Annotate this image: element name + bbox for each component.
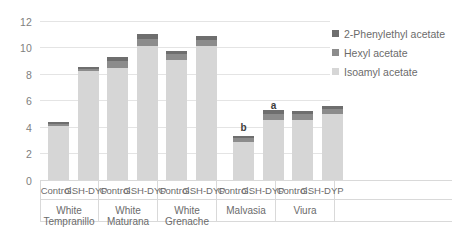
group-label-viura: Viura — [276, 205, 334, 216]
segment-hexyl-acetate — [107, 61, 128, 68]
group-label-white-grenache: White Grenache — [158, 205, 216, 227]
square-swatch-icon — [332, 49, 339, 56]
y-axis-label-4: 4 — [0, 122, 32, 134]
bar-malvasia-control[interactable] — [233, 136, 254, 180]
bar-white-grenache-gsh-dyp[interactable] — [196, 36, 217, 180]
square-swatch-icon — [332, 30, 339, 37]
legend-label-isoamyl-acetate: Isoamyl acetate — [344, 66, 418, 78]
segment-hexyl-acetate — [137, 39, 158, 46]
annotation-malvasia-gsh-dyp: a — [263, 100, 284, 111]
segment-isoamyl-acetate — [196, 46, 217, 180]
x-axis-line — [40, 180, 452, 181]
y-axis-label-8: 8 — [0, 69, 32, 81]
legend-label-hexyl-acetate: Hexyl acetate — [344, 47, 408, 59]
bar-white-grenache-control[interactable] — [166, 51, 187, 180]
segment-isoamyl-acetate — [292, 120, 313, 180]
x-axis-divider-line — [40, 199, 452, 200]
legend-label-2-phenylethyl-acetate: 2-Phenylethyl acetate — [344, 28, 445, 40]
annotation-malvasia-control: b — [233, 122, 254, 133]
stacked-bar-chart: 12 10 8 6 4 2 0 — [0, 0, 465, 241]
group-label-white-tempranillo: White Tempranillo — [40, 205, 98, 227]
segment-isoamyl-acetate — [322, 114, 343, 180]
segment-isoamyl-acetate — [233, 142, 254, 180]
y-axis-label-6: 6 — [0, 95, 32, 107]
legend-item-hexyl-acetate[interactable]: Hexyl acetate — [332, 43, 464, 62]
group-label-white-maturana: White Maturana — [99, 205, 157, 227]
y-axis-label-2: 2 — [0, 148, 32, 160]
segment-isoamyl-acetate — [78, 71, 99, 180]
tick-label-viura-gsh-dyp: GSH-DYP — [299, 185, 345, 196]
segment-isoamyl-acetate — [137, 46, 158, 180]
bar-viura-control[interactable] — [292, 111, 313, 180]
segment-isoamyl-acetate — [48, 126, 69, 180]
square-swatch-icon — [332, 68, 339, 75]
legend-item-2-phenylethyl-acetate[interactable]: 2-Phenylethyl acetate — [332, 24, 464, 43]
y-axis-label-12: 12 — [0, 16, 32, 28]
bar-viura-gsh-dyp[interactable] — [322, 106, 343, 180]
legend-item-isoamyl-acetate[interactable]: Isoamyl acetate — [332, 62, 464, 81]
y-axis: 12 10 8 6 4 2 0 — [0, 0, 40, 241]
bar-series-container — [40, 21, 330, 180]
bar-white-tempranillo-gsh-dyp[interactable] — [78, 67, 99, 180]
segment-isoamyl-acetate — [166, 60, 187, 180]
chart-legend: 2-Phenylethyl acetate Hexyl acetate Isoa… — [332, 24, 464, 81]
bar-white-tempranillo-control[interactable] — [48, 122, 69, 180]
bar-white-maturana-gsh-dyp[interactable] — [137, 34, 158, 180]
bar-malvasia-gsh-dyp[interactable] — [263, 110, 284, 180]
group-label-malvasia: Malvasia — [217, 205, 275, 216]
segment-isoamyl-acetate — [263, 120, 284, 180]
y-axis-label-0: 0 — [0, 175, 32, 187]
bar-white-maturana-control[interactable] — [107, 57, 128, 180]
segment-isoamyl-acetate — [107, 68, 128, 180]
y-axis-label-10: 10 — [0, 42, 32, 54]
